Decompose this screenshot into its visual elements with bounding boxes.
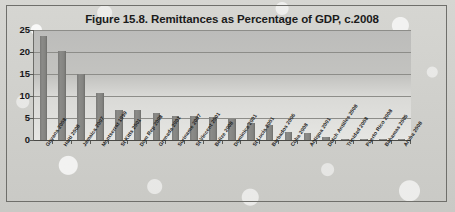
y-axis-tick-mark (30, 140, 34, 141)
y-axis-tick-label: 5 (8, 112, 30, 123)
bar-chart: Figure 15.8. Remittances as Percentage o… (6, 5, 449, 207)
chart-title: Figure 15.8. Remittances as Percentage o… (42, 13, 422, 25)
y-axis-tick-mark (30, 118, 34, 119)
y-axis-tick-mark (30, 30, 34, 31)
y-axis-tick-label: 15 (8, 68, 30, 79)
y-axis-tick-label: 20 (8, 46, 30, 57)
y-axis-tick-label: 25 (8, 24, 30, 35)
gridline (34, 96, 411, 97)
y-axis-tick-label: 10 (8, 90, 30, 101)
y-axis-tick-mark (30, 74, 34, 75)
bar[interactable] (40, 36, 48, 140)
gridline (34, 74, 411, 75)
gridline (34, 118, 411, 119)
gridline (34, 30, 411, 31)
plot-area: 0510152025 (33, 30, 411, 141)
y-axis-tick-label: 0 (8, 134, 30, 145)
y-axis-tick-mark (30, 52, 34, 53)
gridline (34, 52, 411, 53)
y-axis-tick-mark (30, 96, 34, 97)
